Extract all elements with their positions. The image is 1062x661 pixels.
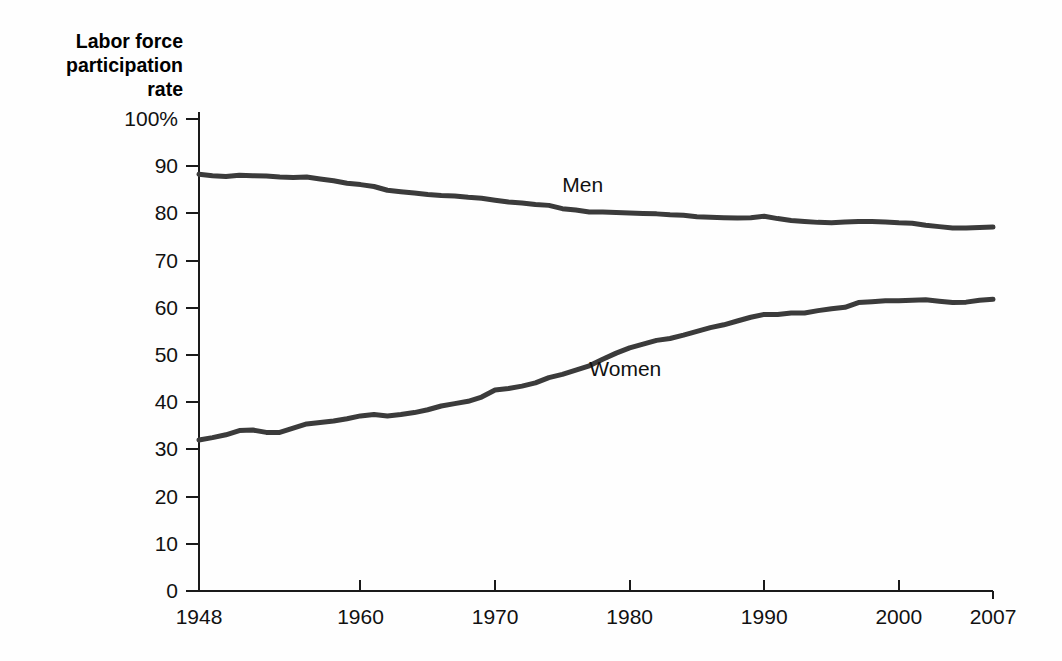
chart-figure: Labor force participation rate 010203040… (0, 0, 1062, 661)
chart-series-group (199, 174, 993, 440)
chart-title-line-2: participation (66, 54, 183, 76)
y-tick-label-10: 10 (155, 532, 178, 555)
chart-title-line-3: rate (147, 78, 183, 100)
y-tick-label-90: 90 (155, 154, 178, 177)
y-tick-label-40: 40 (155, 390, 178, 413)
x-tick-label-2007: 2007 (970, 605, 1017, 628)
x-tick-label-1980: 1980 (606, 605, 653, 628)
y-tick-label-70: 70 (155, 249, 178, 272)
y-tick-label-80: 80 (155, 201, 178, 224)
x-tick-label-2000: 2000 (875, 605, 922, 628)
x-axis: 1948196019701980199020002007 (176, 580, 1017, 628)
x-tick-label-1970: 1970 (472, 605, 519, 628)
chart-annotations: MenWomen (562, 173, 661, 380)
y-tick-label-30: 30 (155, 437, 178, 460)
y-tick-label-100: 100% (124, 107, 178, 130)
y-tick-label-20: 20 (155, 485, 178, 508)
y-tick-label-0: 0 (166, 579, 178, 602)
series-label-women: Women (589, 357, 661, 380)
x-tick-label-1948: 1948 (176, 605, 223, 628)
chart-title: Labor force participation rate (66, 30, 183, 100)
y-tick-label-60: 60 (155, 296, 178, 319)
x-tick-label-1990: 1990 (741, 605, 788, 628)
line-chart: Labor force participation rate 010203040… (0, 0, 1062, 661)
y-axis: 0102030405060708090100% (124, 107, 199, 602)
chart-title-line-1: Labor force (76, 30, 183, 52)
series-label-men: Men (562, 173, 603, 196)
x-tick-label-1960: 1960 (337, 605, 384, 628)
y-tick-label-50: 50 (155, 343, 178, 366)
